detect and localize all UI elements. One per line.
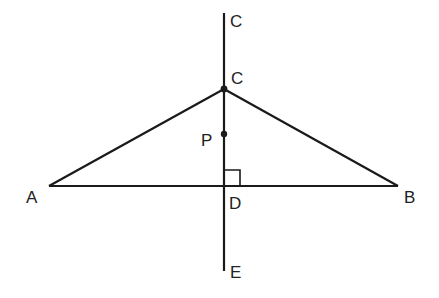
side-cb <box>224 89 398 186</box>
label-c-top: C <box>230 12 242 31</box>
label-e: E <box>230 263 241 282</box>
point-c-dot <box>221 86 228 93</box>
label-c: C <box>231 69 243 88</box>
label-d: D <box>229 194 241 213</box>
label-a: A <box>26 188 38 207</box>
right-angle-marker <box>224 170 240 186</box>
label-p: P <box>201 131 212 150</box>
side-ac <box>49 89 224 186</box>
point-p-dot <box>221 131 227 137</box>
geometry-diagram: C C P A B D E <box>0 0 439 298</box>
label-b: B <box>404 188 415 207</box>
